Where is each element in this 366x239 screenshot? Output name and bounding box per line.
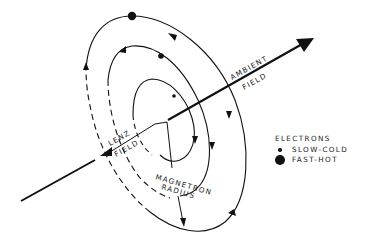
arrow-down-icon [180,218,186,227]
lenz-field-arrow[interactable] [21,124,155,201]
arrow-icon [119,46,126,53]
legend: ELECTRONS SLOW-COLD FAST-HOT [275,134,348,166]
electron-orbit-diagram: AMBIENT FIELD LENZ FIELD MAGNETRON RADIU… [0,0,366,239]
slow-cold-electron-dot [172,94,176,98]
legend-label-slow: SLOW-COLD [292,145,348,156]
legend-title: ELECTRONS [275,134,348,145]
legend-item-slow: SLOW-COLD [275,145,348,156]
arrowhead-icon [100,147,112,156]
diagram-canvas: AMBIENT FIELD LENZ FIELD MAGNETRON RADIU… [0,0,366,239]
legend-item-fast: FAST-HOT [275,155,348,166]
small-dot-icon [278,148,282,152]
arrow-icon [168,33,177,41]
electron-dot [158,53,164,59]
inner-orbit [133,79,198,161]
arrow-up-icon [83,62,89,70]
outer-orbit [83,12,246,231]
legend-label-fast: FAST-HOT [292,155,338,166]
arrow-down-icon [226,111,232,119]
ambient-field-arrow[interactable] [168,38,314,120]
fast-hot-electron-dot [128,12,136,20]
large-dot-icon [275,155,285,165]
